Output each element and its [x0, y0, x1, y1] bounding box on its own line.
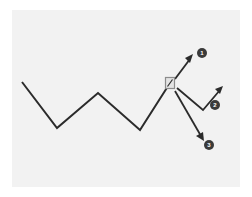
diagram-canvas: 1 2 3 [0, 0, 252, 197]
scenario-forecast-diagram: 1 2 3 [0, 0, 252, 197]
scenario-2-badge[interactable]: 2 [210, 100, 220, 110]
scenario-3-badge[interactable]: 3 [204, 140, 214, 150]
diagram-panel-background [12, 10, 240, 187]
branch-point-marker[interactable] [166, 78, 175, 89]
scenario-1-badge[interactable]: 1 [197, 48, 207, 58]
